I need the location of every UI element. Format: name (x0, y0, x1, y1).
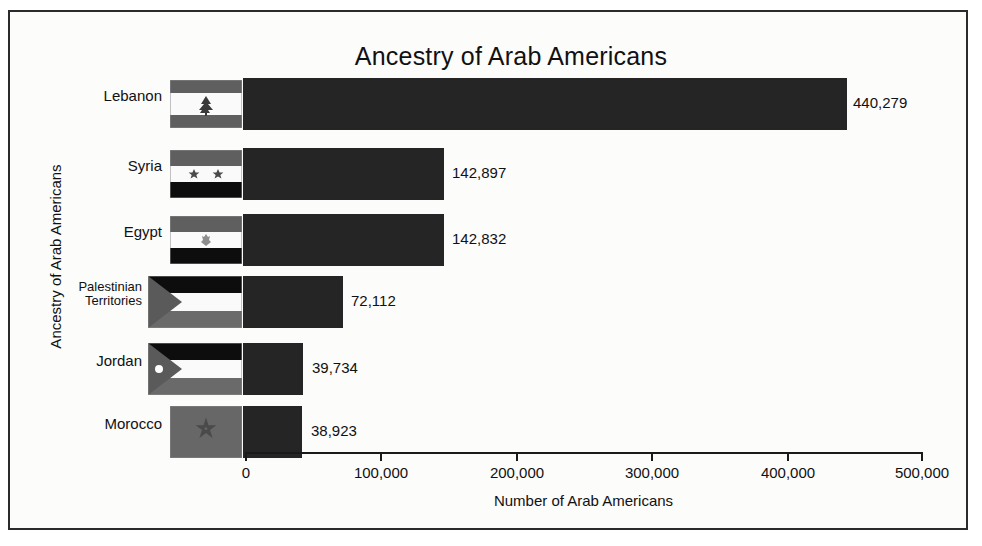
x-axis-title: Number of Arab Americans (245, 492, 922, 509)
bar-row-egypt: Egypt 142,832 (0, 208, 982, 270)
bar-value-syria: 142,897 (452, 164, 506, 181)
bar-row-syria: Syria 142,897 (0, 142, 982, 204)
x-tick-label-100000: 100,000 (354, 464, 408, 481)
bar-value-palestinian-territories: 72,112 (351, 292, 396, 309)
bar-egypt (243, 214, 444, 266)
category-label-egypt: Egypt (12, 224, 162, 240)
category-label-palestinian-territories: Palestinian Territories (0, 280, 142, 308)
bar-syria (243, 148, 444, 200)
egypt-flag-icon (170, 216, 242, 264)
chart-page: Ancestry of Arab Americans Ancestry of A… (0, 0, 982, 546)
syria-flag-icon (170, 150, 242, 198)
bar-palestinian-territories (243, 276, 343, 328)
palestine-flag-icon (148, 276, 242, 328)
x-tick-200000 (516, 452, 518, 461)
x-tick-400000 (787, 452, 789, 461)
bar-row-jordan: Jordan 39,734 (0, 337, 982, 399)
x-tick-label-300000: 300,000 (625, 464, 679, 481)
bar-lebanon (243, 78, 847, 130)
morocco-flag-icon (170, 406, 242, 458)
x-tick-0 (245, 452, 247, 461)
category-label-jordan: Jordan (0, 353, 142, 369)
bar-value-lebanon: 440,279 (853, 94, 907, 111)
bar-jordan (243, 343, 303, 395)
x-tick-500000 (921, 452, 923, 461)
x-tick-label-200000: 200,000 (490, 464, 544, 481)
category-label-syria: Syria (12, 158, 162, 174)
x-axis-line (245, 452, 922, 454)
x-tick-label-400000: 400,000 (761, 464, 815, 481)
category-label-morocco: Morocco (12, 416, 162, 432)
bar-value-jordan: 39,734 (312, 359, 358, 376)
x-tick-300000 (651, 452, 653, 461)
bar-morocco (243, 406, 302, 458)
jordan-flag-icon (148, 343, 242, 395)
page-title: Ancestry of Arab Americans (0, 42, 982, 71)
bar-value-morocco: 38,923 (311, 422, 357, 439)
plot-area: Lebanon 440,279 Syria (0, 72, 982, 442)
bar-value-egypt: 142,832 (452, 230, 506, 247)
bar-row-lebanon: Lebanon 440,279 (0, 72, 982, 134)
category-label-lebanon: Lebanon (12, 88, 162, 104)
x-tick-label-0: 0 (242, 464, 250, 481)
x-tick-100000 (380, 452, 382, 461)
x-tick-label-500000: 500,000 (895, 464, 949, 481)
lebanon-flag-icon (170, 80, 242, 128)
bar-row-palestinian-territories: Palestinian Territories 72,112 (0, 270, 982, 332)
